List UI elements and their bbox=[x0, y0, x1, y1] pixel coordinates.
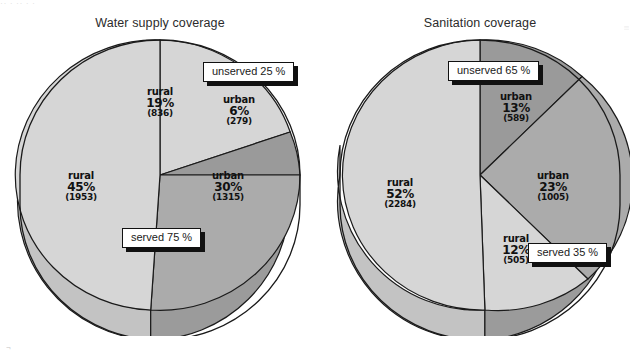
slice-label-count: (589) bbox=[485, 114, 547, 123]
slice-label-rural-52: rural 52% (2284) bbox=[365, 178, 435, 210]
chart-title-water-supply: Water supply coverage bbox=[0, 16, 320, 30]
chart-sanitation: Sanitation coverage urban 13% (58 bbox=[320, 0, 640, 357]
slice-label-urban-23: urban 23% (1005) bbox=[520, 171, 586, 203]
slice-label-urban-30: urban 30% (1315) bbox=[195, 171, 261, 203]
callout-served-water: served 75 % bbox=[122, 228, 201, 248]
callout-unserved-sanitation: unserved 65 % bbox=[448, 61, 539, 81]
slice-label-count: (1953) bbox=[48, 193, 114, 202]
slice-label-urban-6: urban 6% (279) bbox=[210, 95, 268, 127]
slice-label-count: (2284) bbox=[365, 200, 435, 209]
callout-text: unserved 25 % bbox=[203, 62, 294, 82]
callout-text: served 35 % bbox=[528, 243, 607, 263]
chart-water-supply: Water supply coverage rural bbox=[0, 0, 320, 357]
callout-unserved-water: unserved 25 % bbox=[203, 62, 294, 82]
slice-label-count: (1005) bbox=[520, 193, 586, 202]
slice-label-urban-13: urban 13% (589) bbox=[485, 92, 547, 124]
callout-text: served 75 % bbox=[122, 228, 201, 248]
slice-label-count: (279) bbox=[210, 117, 268, 126]
slice-label-count: (836) bbox=[128, 109, 192, 118]
chart-title-sanitation: Sanitation coverage bbox=[320, 16, 640, 30]
slice-label-rural-45: rural 45% (1953) bbox=[48, 171, 114, 203]
callout-served-sanitation: served 35 % bbox=[528, 243, 607, 263]
slice-label-count: (1315) bbox=[195, 193, 261, 202]
callout-text: unserved 65 % bbox=[448, 61, 539, 81]
slice-label-rural-19: rural 19% (836) bbox=[128, 87, 192, 119]
